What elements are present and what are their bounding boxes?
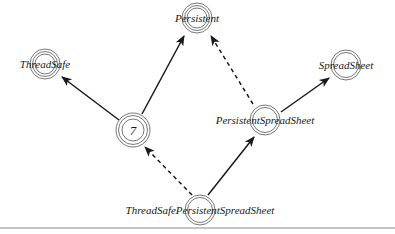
node-label: ThreadSafe: [20, 58, 70, 70]
node-persistent[interactable]: Persistent: [174, 3, 220, 33]
inheritance-diagram: ThreadSafe Persistent SpreadSheet 7 Pers…: [0, 0, 395, 234]
node-threadsafe[interactable]: ThreadSafe: [20, 49, 70, 79]
edge-persistentspreadsheet-to-persistent: [211, 36, 253, 104]
edge-threadsafepersistentspreadsheet-to-seven: [145, 147, 192, 195]
node-label: SpreadSheet: [319, 59, 375, 71]
edge-seven-to-threadsafe: [62, 77, 119, 120]
edge-persistentspreadsheet-to-spreadsheet: [281, 78, 329, 112]
node-label: ThreadSafePersistentSpreadSheet: [126, 204, 276, 216]
node-seven[interactable]: 7: [116, 113, 150, 147]
node-spreadsheet[interactable]: SpreadSheet: [319, 50, 375, 80]
node-label: 7: [130, 123, 137, 138]
node-threadsafepersistentspreadsheet[interactable]: ThreadSafePersistentSpreadSheet: [126, 195, 276, 225]
edge-threadsafepersistentspreadsheet-to-persistentspreadsheet: [208, 137, 254, 195]
node-label: Persistent: [174, 12, 220, 24]
edge-seven-to-persistent: [142, 36, 184, 114]
node-persistentspreadsheet[interactable]: PersistentSpreadSheet: [215, 105, 316, 135]
node-label: PersistentSpreadSheet: [215, 114, 316, 126]
